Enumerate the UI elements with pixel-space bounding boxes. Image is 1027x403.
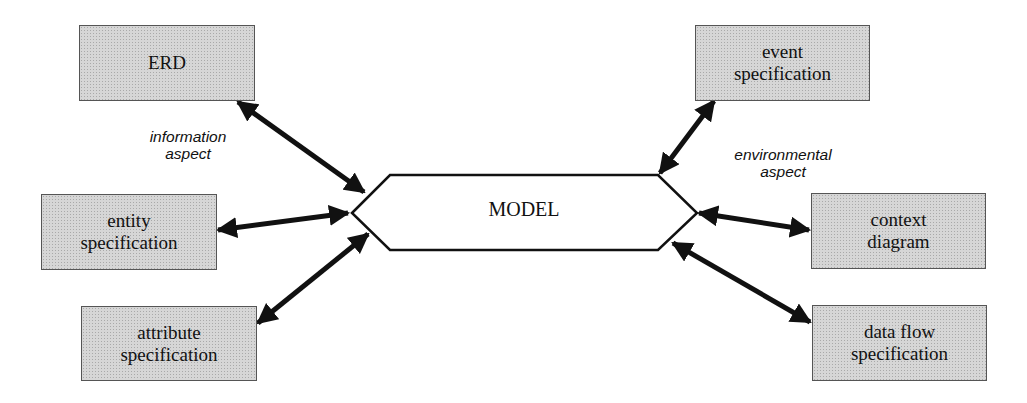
arrow-event-model xyxy=(660,101,714,173)
node-attribute-specification[interactable]: attribute specification xyxy=(81,306,257,381)
information-aspect-line1: information xyxy=(128,128,248,145)
information-aspect-label: information aspect xyxy=(128,128,248,162)
arrow-entity-model xyxy=(218,213,348,230)
arrow-attribute-model xyxy=(258,234,368,323)
node-attribute-line2: specification xyxy=(120,344,217,366)
node-erd-label: ERD xyxy=(148,52,186,74)
environmental-aspect-line1: environmental xyxy=(712,146,854,163)
node-entity-specification[interactable]: entity specification xyxy=(41,194,217,270)
node-event-line2: specification xyxy=(734,63,831,85)
node-entity-line1: entity xyxy=(107,210,150,232)
node-entity-line2: specification xyxy=(80,232,177,254)
node-context-diagram[interactable]: context diagram xyxy=(811,193,986,269)
arrow-erd-model xyxy=(238,102,364,192)
model-label: MODEL xyxy=(390,198,658,221)
environmental-aspect-label: environmental aspect xyxy=(712,146,854,180)
node-dataflow-line1: data flow xyxy=(864,321,935,343)
node-erd[interactable]: ERD xyxy=(79,25,255,101)
node-event-line1: event xyxy=(762,41,803,63)
node-event-specification[interactable]: event specification xyxy=(695,25,870,101)
arrow-dataflow-model xyxy=(673,243,810,322)
information-aspect-line2: aspect xyxy=(128,145,248,162)
node-context-line1: context xyxy=(871,209,927,231)
node-context-line2: diagram xyxy=(867,231,929,253)
node-data-flow-specification[interactable]: data flow specification xyxy=(812,305,987,381)
environmental-aspect-line2: aspect xyxy=(712,163,854,180)
arrow-context-model xyxy=(699,213,809,230)
node-attribute-line1: attribute xyxy=(137,322,200,344)
node-dataflow-line2: specification xyxy=(851,343,948,365)
